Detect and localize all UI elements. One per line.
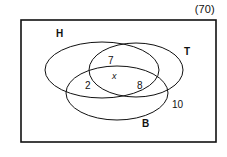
set-label-T: T xyxy=(184,46,190,57)
set-label-B: B xyxy=(142,118,149,129)
region-value-outside-sets: 10 xyxy=(172,99,183,110)
region-value-h-and-t-and-b: x xyxy=(112,71,117,81)
universal-set-rectangle xyxy=(21,20,216,142)
region-value-h-and-t: 7 xyxy=(108,55,114,66)
venn-diagram-figure: (70) H T B 7 x 2 8 10 xyxy=(0,0,227,157)
region-value-h-and-b: 2 xyxy=(85,80,91,91)
region-value-t-and-b: 8 xyxy=(137,80,143,91)
set-label-H: H xyxy=(56,28,63,39)
